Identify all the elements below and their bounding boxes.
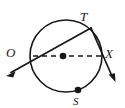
geometry-figure: T O X S	[0, 0, 125, 108]
center-point-dot	[60, 53, 67, 60]
vertex-label-x: X	[105, 47, 113, 60]
vertex-label-t: T	[80, 10, 87, 23]
point-dot-s	[75, 87, 82, 94]
vertex-label-s: S	[73, 96, 79, 107]
vertex-label-o: O	[6, 46, 15, 59]
secant-ray-T-O	[11, 28, 91, 73]
arrowhead-lower-right-icon	[109, 73, 116, 82]
